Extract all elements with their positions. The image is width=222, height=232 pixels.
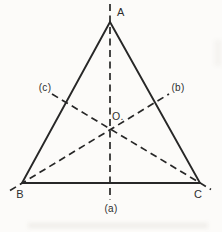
symmetry-axis-b-line — [10, 94, 169, 191]
triangle-outline — [22, 22, 200, 183]
vertex-label-c: C — [194, 188, 202, 200]
vertex-label-b: B — [16, 188, 24, 200]
axis-label-a: (a) — [104, 203, 117, 214]
vertex-label-a: A — [117, 6, 125, 18]
center-point-label: O. — [112, 110, 124, 122]
axis-label-b: (b) — [171, 82, 184, 93]
geometry-figure: A B C O. (a) (b) (c) — [0, 0, 222, 232]
triangle-symmetry-diagram: A B C O. (a) (b) (c) — [0, 0, 222, 232]
symmetry-axis-c-line — [52, 94, 211, 190]
axis-label-c: (c) — [39, 82, 52, 93]
